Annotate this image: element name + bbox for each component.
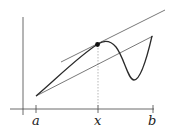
label-x: x	[94, 113, 102, 128]
label-b: b	[148, 113, 156, 128]
tangent-line	[61, 10, 165, 62]
mvt-diagram: a x b	[0, 0, 169, 134]
label-a: a	[32, 113, 40, 128]
tangent-point	[95, 42, 100, 47]
